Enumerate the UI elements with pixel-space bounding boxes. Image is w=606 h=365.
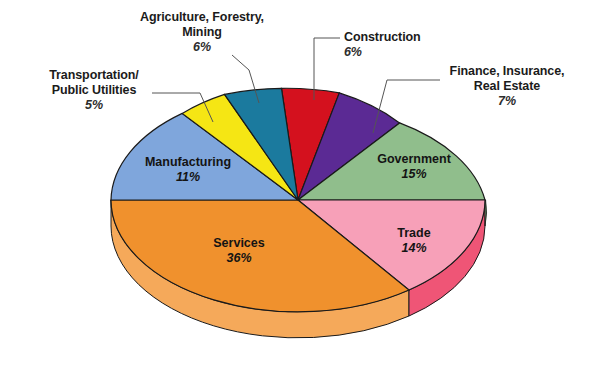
- label-trade-line1: Trade: [397, 226, 430, 240]
- label-construction-line1: Construction: [344, 30, 421, 44]
- label-agriculture-percent: 6%: [121, 40, 283, 55]
- label-government-line1: Government: [377, 152, 451, 166]
- label-construction: Construction 6%: [344, 30, 421, 60]
- label-services-percent: 36%: [197, 251, 281, 266]
- label-transportation-public-utilities: Transportation/ Public Utilities 5%: [24, 68, 164, 112]
- pie-chart-figure: Agriculture, Forestry, Mining 6% Transpo…: [0, 0, 606, 365]
- pie-chart-svg: [0, 0, 606, 365]
- label-trade: Trade 14%: [384, 226, 444, 256]
- label-manufacturing-line1: Manufacturing: [145, 155, 231, 169]
- label-agriculture-line2: Mining: [182, 25, 222, 39]
- label-services: Services 36%: [197, 236, 281, 266]
- label-agriculture-forestry-mining: Agriculture, Forestry, Mining 6%: [121, 10, 283, 54]
- label-government-percent: 15%: [366, 167, 462, 182]
- label-agriculture-line1: Agriculture, Forestry,: [140, 10, 264, 24]
- label-finance-percent: 7%: [422, 94, 592, 109]
- label-finance-line2: Real Estate: [474, 79, 540, 93]
- pie-slices: [111, 88, 485, 312]
- label-trade-percent: 14%: [384, 241, 444, 256]
- label-manufacturing-percent: 11%: [133, 170, 243, 185]
- label-transportation-percent: 5%: [24, 98, 164, 113]
- label-manufacturing: Manufacturing 11%: [133, 155, 243, 185]
- label-transportation-line1: Transportation/: [49, 68, 138, 82]
- label-construction-percent: 6%: [344, 45, 421, 60]
- label-government: Government 15%: [366, 152, 462, 182]
- label-transportation-line2: Public Utilities: [52, 83, 137, 97]
- label-finance-line1: Finance, Insurance,: [450, 64, 565, 78]
- label-finance-insurance-real-estate: Finance, Insurance, Real Estate 7%: [422, 64, 592, 108]
- label-services-line1: Services: [213, 236, 264, 250]
